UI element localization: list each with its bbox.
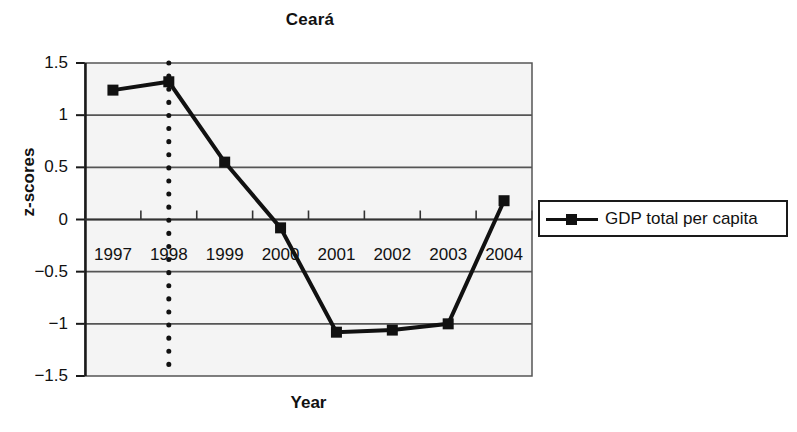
y-axis-ticks <box>76 63 85 376</box>
y-tick-label: −1 <box>12 315 68 332</box>
x-tick-label: 2003 <box>419 246 477 263</box>
legend-square-icon <box>566 214 577 225</box>
legend-marker-icon <box>546 211 598 227</box>
x-tick-label: 1999 <box>196 246 254 263</box>
legend-entry-gdp-total-per-capita: GDP total per capita <box>546 202 758 235</box>
y-tick-label: −0.5 <box>12 263 68 280</box>
y-tick-label: 0 <box>12 211 68 228</box>
y-tick-label: −1.5 <box>12 367 68 384</box>
x-tick-label: 2004 <box>475 246 533 263</box>
chart-legend: GDP total per capita <box>538 200 788 237</box>
y-tick-label: 1 <box>12 106 68 123</box>
legend-label: GDP total per capita <box>605 209 758 229</box>
x-tick-label: 1998 <box>140 246 198 263</box>
y-tick-label: 1.5 <box>12 54 68 71</box>
y-tick-label: 0.5 <box>12 158 68 175</box>
x-tick-label: 2002 <box>363 246 421 263</box>
x-tick-label: 2000 <box>252 246 310 263</box>
x-tick-label: 2001 <box>307 246 365 263</box>
x-tick-label: 1997 <box>84 246 142 263</box>
chart-figure: Ceará z-scores Year 1.510.50−0.5−1−1.5 1… <box>0 0 797 432</box>
